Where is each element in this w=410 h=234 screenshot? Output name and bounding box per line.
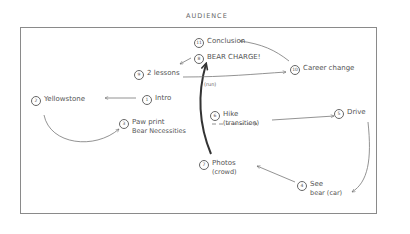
node-7: 7Photos(crowd): [199, 159, 237, 177]
node-label: Career change: [303, 64, 354, 73]
node-5: 5Drive: [334, 108, 366, 119]
edge-6-to-5: [272, 116, 334, 120]
node-label-group: Conclusion: [207, 37, 245, 46]
node-label: 2 lessons: [147, 69, 180, 78]
node-label: Photos: [212, 159, 237, 168]
node-number-badge: 8: [194, 54, 204, 64]
node-label: Drive: [347, 108, 366, 117]
node-number-badge: 9: [134, 70, 144, 80]
node-number-badge: 6: [210, 111, 220, 121]
node-label-group: Paw printBear Necessities: [132, 118, 186, 136]
node-label: BEAR CHARGE!: [207, 53, 261, 62]
edge-4-to-7: [257, 166, 295, 182]
node-number-badge: 1: [142, 95, 152, 105]
node-sublabel: Bear Necessities: [132, 127, 186, 136]
edge-9-to-10: [183, 72, 286, 77]
node-label: See: [310, 180, 342, 189]
edge-8-to-9: [180, 58, 191, 64]
node-number-badge: 11: [194, 38, 204, 48]
edge-2-to-3: [44, 115, 119, 142]
node-11: 11Conclusion: [194, 37, 245, 48]
node-label: Intro: [155, 94, 171, 103]
node-label-group: 2 lessons: [147, 69, 180, 78]
node-label: Conclusion: [207, 37, 245, 46]
node-label-group: Hike(transition): [223, 110, 259, 128]
node-4: 4Seebear (car): [297, 180, 342, 198]
node-label-group: Photos(crowd): [212, 159, 237, 177]
edge-annotation: (run): [204, 81, 216, 87]
node-label-group: Career change: [303, 64, 354, 73]
diagram-canvas: AUDIENCE 1Intro2Yellowstone3Paw printBea…: [0, 0, 410, 234]
node-2: 2Yellowstone: [31, 95, 85, 106]
node-label: Hike: [223, 110, 259, 119]
node-number-badge: 2: [31, 96, 41, 106]
node-label-group: BEAR CHARGE!: [207, 53, 261, 62]
node-10: 10Career change: [290, 64, 354, 75]
node-label-group: Drive: [347, 108, 366, 117]
node-number-badge: 5: [334, 109, 344, 119]
node-3: 3Paw printBear Necessities: [119, 118, 186, 136]
node-number-badge: 4: [297, 181, 307, 191]
node-label: Paw print: [132, 118, 186, 127]
node-8: 8BEAR CHARGE!: [194, 53, 261, 64]
node-sublabel: bear (car): [310, 189, 342, 198]
node-number-badge: 3: [119, 119, 129, 129]
node-6: 6Hike(transition): [210, 110, 259, 128]
node-number-badge: 10: [290, 65, 300, 75]
node-label-group: Seebear (car): [310, 180, 342, 198]
node-sublabel: (crowd): [212, 168, 237, 177]
node-label-group: Yellowstone: [44, 95, 85, 104]
edge-7-to-8: [200, 64, 211, 154]
node-1: 1Intro: [142, 94, 171, 105]
node-sublabel: (transition): [223, 119, 259, 128]
node-label: Yellowstone: [44, 95, 85, 104]
node-number-badge: 7: [199, 160, 209, 170]
node-label-group: Intro: [155, 94, 171, 103]
edge-5-to-4: [352, 122, 369, 192]
node-9: 92 lessons: [134, 69, 180, 80]
